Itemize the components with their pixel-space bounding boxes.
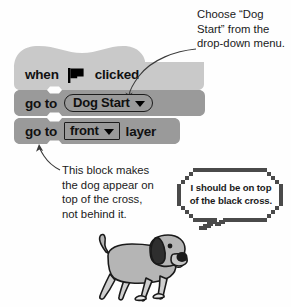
figure-canvas: when clicked go to Dog Start xyxy=(0,0,291,307)
annotation-bottom-line: This block makes xyxy=(62,163,170,178)
go-to-label: go to xyxy=(25,96,57,111)
layer-label: layer xyxy=(126,124,157,139)
speech-bubble-line: I should be on top xyxy=(188,181,274,194)
clicked-label: clicked xyxy=(95,67,139,82)
layer-dropdown-value: front xyxy=(70,123,99,138)
speech-bubble: I should be on top of the black cross. xyxy=(177,168,283,224)
speech-bubble-line: of the black cross. xyxy=(188,194,274,207)
annotation-top: Choose “Dog Start” from the drop-down me… xyxy=(197,7,291,51)
speech-bubble-text: I should be on top of the black cross. xyxy=(188,181,274,207)
annotation-top-line: Start” from the xyxy=(197,22,291,37)
annotation-top-line: Choose “Dog xyxy=(197,7,291,22)
block-go-to-sprite[interactable]: go to Dog Start xyxy=(14,90,205,116)
annotation-bottom-line: not behind it. xyxy=(62,207,170,222)
annotation-bottom-line: top of the cross, xyxy=(62,192,170,207)
sprite-dropdown-value: Dog Start xyxy=(73,95,130,110)
go-to-label: go to xyxy=(25,124,57,139)
layer-dropdown[interactable]: front xyxy=(64,122,120,140)
hat-block-label-row: when clicked xyxy=(14,58,204,90)
green-flag-icon xyxy=(68,68,85,83)
chevron-down-icon xyxy=(135,101,145,107)
when-label: when xyxy=(25,67,59,82)
sprite-dropdown[interactable]: Dog Start xyxy=(64,94,153,112)
annotation-top-line: drop-down menu. xyxy=(197,36,291,51)
arrow-to-layer-block xyxy=(40,149,60,170)
block-when-flag-clicked[interactable]: when clicked xyxy=(14,44,204,90)
annotation-bottom: This block makes the dog appear on top o… xyxy=(62,163,170,221)
chevron-down-icon xyxy=(104,129,114,135)
annotation-bottom-line: the dog appear on xyxy=(62,178,170,193)
block-go-to-layer[interactable]: go to front layer xyxy=(14,118,180,144)
dog-sprite xyxy=(84,232,190,304)
